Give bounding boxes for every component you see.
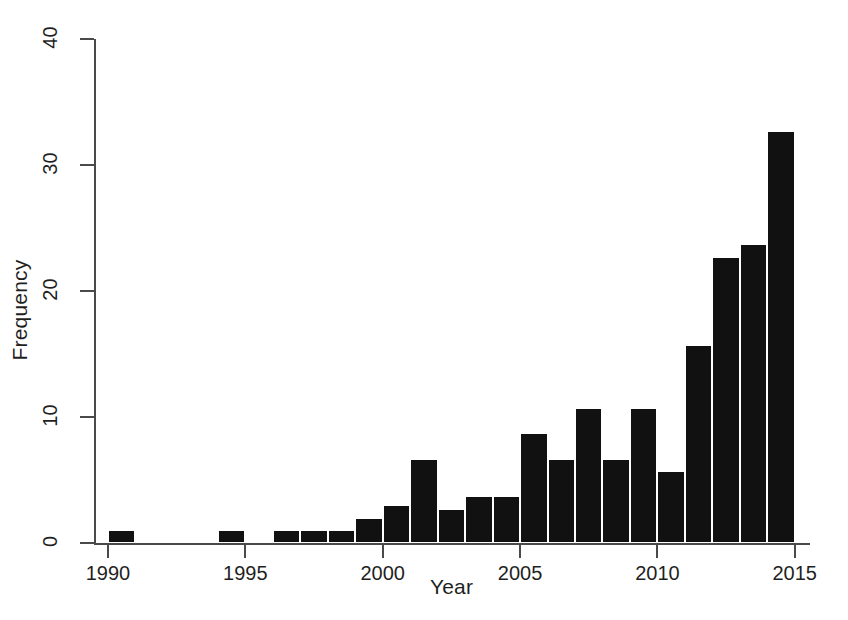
bar-2009 — [630, 408, 657, 543]
x-tick-label-2015: 2015 — [750, 562, 840, 585]
frequency-by-year-bar-chart: Frequency Year 010203040 199019952000200… — [0, 0, 848, 620]
bar-2001 — [410, 459, 437, 543]
y-tick-10 — [80, 416, 94, 418]
bar-2002 — [438, 509, 465, 543]
x-tick-1990 — [107, 545, 109, 558]
bar-2011 — [685, 345, 712, 543]
x-tick-label-1990: 1990 — [63, 562, 153, 585]
bar-1990 — [108, 530, 135, 543]
bar-1997 — [300, 530, 327, 543]
x-tick-1995 — [244, 545, 246, 558]
x-tick-label-2010: 2010 — [612, 562, 702, 585]
plot-area: 010203040 199019952000200520102015 — [0, 0, 848, 620]
x-tick-label-2000: 2000 — [338, 562, 428, 585]
x-tick-2010 — [656, 545, 658, 558]
y-tick-label-30: 30 — [39, 142, 62, 186]
bar-2005 — [520, 433, 547, 543]
bar-2010 — [657, 471, 684, 543]
bar-1998 — [328, 530, 355, 543]
bar-1994 — [218, 530, 245, 543]
y-axis-line — [94, 39, 96, 544]
bar-1996 — [273, 530, 300, 543]
bar-2014 — [767, 131, 794, 543]
x-tick-label-2005: 2005 — [475, 562, 565, 585]
x-tick-2000 — [382, 545, 384, 558]
y-tick-30 — [80, 164, 94, 166]
bar-1999 — [355, 518, 382, 543]
x-tick-2015 — [794, 545, 796, 558]
y-tick-label-20: 20 — [39, 268, 62, 312]
bar-2000 — [383, 505, 410, 543]
bar-2008 — [602, 459, 629, 543]
x-tick-label-1995: 1995 — [200, 562, 290, 585]
bar-2006 — [548, 459, 575, 543]
bar-2013 — [740, 244, 767, 543]
y-tick-label-0: 0 — [39, 520, 62, 564]
bar-2004 — [493, 496, 520, 543]
bar-2007 — [575, 408, 602, 543]
y-tick-20 — [80, 290, 94, 292]
y-tick-0 — [80, 542, 94, 544]
bar-2003 — [465, 496, 492, 543]
x-tick-2005 — [519, 545, 521, 558]
y-tick-40 — [80, 38, 94, 40]
bar-2012 — [712, 257, 739, 543]
x-axis-line — [94, 543, 810, 545]
y-tick-label-40: 40 — [39, 16, 62, 60]
y-tick-label-10: 10 — [39, 394, 62, 438]
